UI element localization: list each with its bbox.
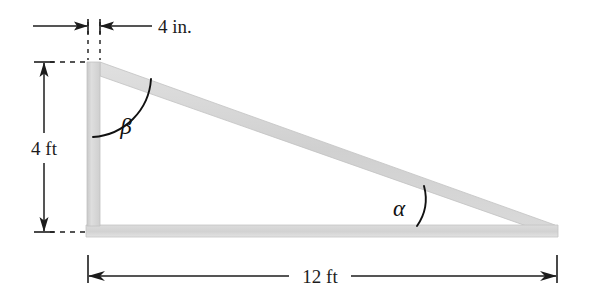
truss-members: [86, 62, 558, 237]
vertical-member: [87, 62, 100, 226]
angle-alpha: α: [393, 186, 426, 226]
dimension-label-height-left: 4 ft: [31, 138, 58, 159]
angle-arc-alpha: [417, 186, 426, 226]
horizontal-member: [86, 225, 558, 237]
truss-diagram-canvas: 4 in. 4 ft: [0, 0, 595, 303]
angle-label-beta: β: [119, 114, 132, 139]
dimension-label-span-bottom: 12 ft: [302, 266, 338, 287]
angle-label-alpha: α: [393, 196, 406, 221]
dimension-width-top: 4 in.: [33, 16, 192, 60]
dimension-height-left: 4 ft: [13, 62, 86, 232]
diagonal-member: [100, 62, 555, 236]
dimension-span-bottom: 12 ft: [88, 255, 557, 290]
dimension-label-width-top: 4 in.: [158, 16, 192, 37]
truss-figure: 4 in. 4 ft: [0, 0, 595, 303]
